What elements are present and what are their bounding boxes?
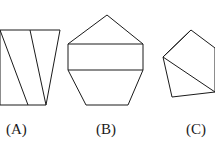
figure-panel: (A) (B) (C): [0, 0, 215, 155]
figure-a-label: (A): [6, 122, 27, 137]
figure-c-internal-line-1: [163, 30, 191, 57]
figure-b: [68, 15, 143, 105]
figure-c-label: (C): [186, 122, 206, 137]
figure-c-internal-line-2: [163, 57, 215, 92]
figure-a-internal-line-1: [0, 30, 28, 105]
figure-a: [0, 30, 60, 105]
figure-b-outline: [68, 15, 143, 105]
figure-b-label: (B): [96, 122, 116, 137]
figure-a-internal-line-2: [30, 30, 46, 105]
figure-a-outline: [0, 30, 60, 105]
figure-c: [163, 30, 215, 97]
